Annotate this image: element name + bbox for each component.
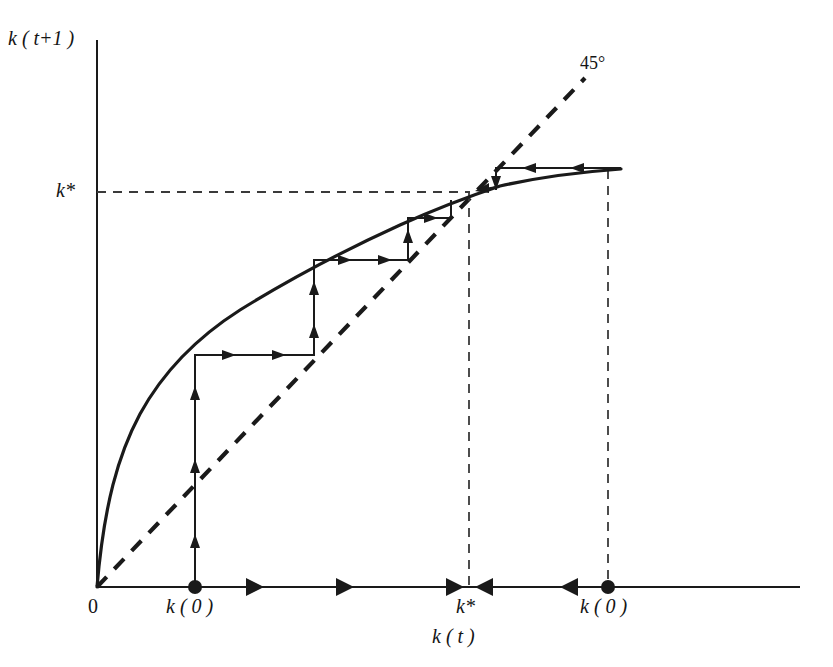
production-function-curve-group	[97, 169, 621, 587]
k0-high-dot	[601, 580, 615, 594]
k-star-y-tick-label: k*	[56, 180, 75, 200]
cobweb-low-arrow-up-3	[403, 229, 413, 243]
cobweb-low-arrow-up-1c	[190, 386, 200, 400]
production-function-curve	[97, 169, 621, 587]
diagonal-45-label: 45°	[580, 54, 605, 72]
k0-high-label: k ( 0 )	[580, 596, 627, 616]
k-star-x-tick-label: k*	[456, 596, 475, 616]
cobweb-low-arrow-up-2b	[309, 281, 319, 295]
k0-low-label: k ( 0 )	[166, 596, 213, 616]
diagonal-45-line	[97, 78, 585, 587]
cobweb-low-arrow-up-1b	[190, 459, 200, 473]
cobweb-low-arrow-right-1b	[272, 350, 286, 360]
cobweb-high-arrow-left-1b	[522, 163, 536, 173]
cobweb-low-arrow-up-1a	[190, 534, 200, 548]
diagonal-45-line-group	[97, 78, 585, 587]
y-axis-label: k ( t+1 )	[8, 28, 74, 48]
cobweb-low-arrow-up-2a	[309, 324, 319, 338]
cobweb-high-arrow-left-1a	[570, 163, 584, 173]
axes-group	[96, 40, 800, 588]
axis-arrow-right-3	[446, 578, 464, 596]
cobweb-low-arrow-right-1a	[222, 350, 236, 360]
solow-diagram-canvas	[0, 0, 833, 667]
origin-label: 0	[88, 596, 98, 616]
axis-arrow-right-2	[336, 578, 354, 596]
cobweb-low-arrow-right-2a	[338, 255, 352, 265]
x-axis-label: k ( t )	[432, 626, 475, 646]
axis-arrow-left-1	[475, 578, 493, 596]
axis-arrow-left-2	[560, 578, 578, 596]
cobweb-low-arrow-right-3	[424, 213, 438, 223]
reference-lines-group	[97, 170, 608, 586]
figure-root: k ( t+1 ) k ( t ) k* 0 k ( 0 ) k* k ( 0 …	[0, 0, 833, 667]
cobweb-low-arrow-right-2b	[378, 255, 392, 265]
axis-arrow-right-1	[246, 578, 264, 596]
k0-low-dot	[188, 580, 202, 594]
